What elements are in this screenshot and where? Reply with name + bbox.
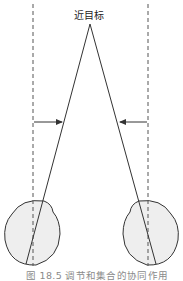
near-target-label: 近目标 (74, 7, 104, 22)
figure-caption: 图 18.5 调节和集合的协同作用 (26, 268, 168, 281)
convergence-diagram (0, 0, 183, 281)
left-eye (5, 201, 60, 266)
right-eye (123, 201, 178, 266)
